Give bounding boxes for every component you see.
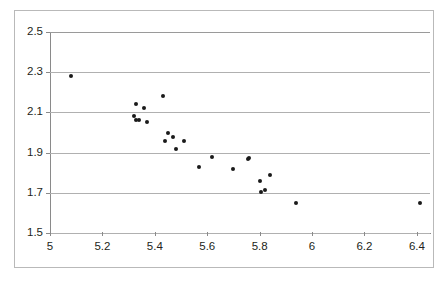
x-tick-mark — [312, 232, 313, 236]
x-tick-mark — [260, 232, 261, 236]
x-tick-label: 6.4 — [409, 241, 425, 253]
gridline-y — [50, 112, 430, 113]
data-point — [197, 165, 201, 169]
y-tick-mark — [46, 193, 50, 194]
x-tick-mark — [102, 232, 103, 236]
data-point — [163, 139, 167, 143]
x-tick-mark — [50, 232, 51, 236]
data-point — [418, 201, 422, 205]
y-tick-label: 1.5 — [27, 227, 43, 239]
gridline-y — [50, 193, 430, 194]
plot-area: 2.52.32.11.91.71.5 — [50, 32, 430, 233]
x-tick-label: 5.2 — [94, 241, 110, 253]
data-point — [69, 74, 73, 78]
gridline-y — [50, 72, 430, 73]
data-point — [294, 201, 298, 205]
data-point — [166, 131, 170, 135]
x-tick-mark — [207, 232, 208, 236]
y-tick-label: 2.1 — [27, 107, 43, 119]
x-tick-label: 5.4 — [147, 241, 163, 253]
y-tick-label: 1.9 — [27, 147, 43, 159]
x-tick-mark — [417, 232, 418, 236]
x-tick-label: 5 — [47, 241, 53, 253]
data-point — [145, 120, 149, 124]
data-point — [161, 94, 165, 98]
x-tick-label: 6.2 — [356, 241, 372, 253]
x-tick-mark — [364, 232, 365, 236]
y-tick-label: 2.5 — [27, 26, 43, 38]
gridline-y — [50, 233, 430, 234]
data-point — [137, 118, 141, 122]
y-tick-mark — [46, 153, 50, 154]
data-point — [174, 147, 178, 151]
y-tick-mark — [46, 72, 50, 73]
data-point — [182, 139, 186, 143]
x-tick-mark — [155, 232, 156, 236]
data-point — [231, 167, 235, 171]
gridline-y — [50, 153, 430, 154]
scatter-chart: 2.52.32.11.91.71.5 55.25.45.65.866.26.4 — [0, 0, 448, 282]
y-tick-mark — [46, 32, 50, 33]
y-tick-mark — [46, 112, 50, 113]
x-tick-label: 5.6 — [199, 241, 215, 253]
data-point — [171, 135, 175, 139]
data-point — [210, 155, 214, 159]
data-point — [258, 179, 262, 183]
x-tick-label: 6 — [309, 241, 315, 253]
gridline-y — [50, 32, 430, 33]
y-tick-label: 2.3 — [27, 66, 43, 78]
x-tick-label: 5.8 — [252, 241, 268, 253]
x-axis-labels: 55.25.45.65.866.26.4 — [50, 237, 430, 259]
data-point — [142, 106, 146, 110]
data-point — [263, 188, 267, 192]
y-tick-label: 1.7 — [27, 187, 43, 199]
data-point — [134, 102, 138, 106]
data-point — [247, 156, 251, 160]
data-point — [268, 173, 272, 177]
